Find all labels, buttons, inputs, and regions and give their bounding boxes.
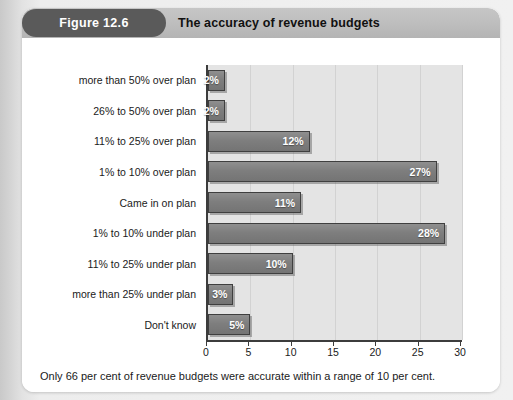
bar-value-label: 2%	[204, 74, 219, 86]
x-tick-label: 25	[412, 346, 424, 358]
y-axis-label: more than 25% under plan	[72, 288, 196, 300]
bar-row: 5%	[208, 314, 462, 335]
y-axis-label: Came in on plan	[120, 197, 196, 209]
y-axis-label: 11% to 25% under plan	[88, 258, 196, 270]
y-axis-label: 1% to 10% over plan	[99, 166, 196, 178]
y-axis-label: 26% to 50% over plan	[93, 105, 196, 117]
bar-value-label: 10%	[266, 258, 287, 270]
bar-value-label: 28%	[418, 227, 439, 239]
y-axis-label: more than 50% over plan	[79, 74, 196, 86]
bar-value-label: 12%	[283, 135, 304, 147]
bar[interactable]: 5%	[208, 314, 250, 335]
figure-caption-text: Only 66 per cent of revenue budgets were…	[22, 370, 435, 382]
bar-value-label: 27%	[410, 166, 431, 178]
x-tick-label: 20	[369, 346, 381, 358]
bar-value-label: 2%	[204, 105, 219, 117]
bar[interactable]: 27%	[208, 161, 437, 182]
x-tick-label: 15	[327, 346, 339, 358]
bar[interactable]: 3%	[208, 284, 233, 305]
bar-row: 2%	[208, 100, 462, 121]
bar-row: 11%	[208, 192, 462, 213]
figure-number-badge: Figure 12.6	[22, 9, 166, 37]
bar-value-label: 11%	[275, 197, 295, 209]
bar-row: 2%	[208, 70, 462, 91]
bar[interactable]: 2%	[208, 100, 225, 121]
bar-value-label: 5%	[229, 319, 244, 331]
bar[interactable]: 11%	[208, 192, 301, 213]
bar-series: 2%2%12%27%11%28%10%3%5%	[208, 65, 462, 340]
x-tick-label: 5	[245, 346, 251, 358]
chart-region: more than 50% over plan26% to 50% over p…	[22, 38, 500, 358]
bar-row: 12%	[208, 131, 462, 152]
bar[interactable]: 28%	[208, 223, 445, 244]
figure-title: The accuracy of revenue budgets	[178, 8, 380, 38]
bar-value-label: 3%	[212, 288, 227, 300]
x-tick-label: 30	[454, 346, 466, 358]
y-axis-label: 1% to 10% under plan	[93, 227, 196, 239]
bar-row: 3%	[208, 284, 462, 305]
figure-header: Figure 12.6 The accuracy of revenue budg…	[22, 8, 500, 38]
bar[interactable]: 10%	[208, 253, 293, 274]
y-axis-category-labels: more than 50% over plan26% to 50% over p…	[22, 65, 202, 342]
y-axis-label: Don't know	[144, 319, 196, 331]
figure-caption: Only 66 per cent of revenue budgets were…	[22, 360, 500, 392]
bar-row: 27%	[208, 161, 462, 182]
bar[interactable]: 12%	[208, 131, 310, 152]
figure-container: Figure 12.6 The accuracy of revenue budg…	[22, 8, 500, 392]
y-axis-label: 11% to 25% over plan	[94, 135, 196, 147]
bar[interactable]: 2%	[208, 70, 225, 91]
gridline	[462, 65, 463, 340]
x-tick-label: 0	[203, 346, 209, 358]
bar-row: 10%	[208, 253, 462, 274]
x-tick-label: 10	[285, 346, 297, 358]
page-background: Figure 12.6 The accuracy of revenue budg…	[0, 0, 513, 400]
bar-row: 28%	[208, 223, 462, 244]
plot-area: 2%2%12%27%11%28%10%3%5%	[206, 65, 462, 342]
